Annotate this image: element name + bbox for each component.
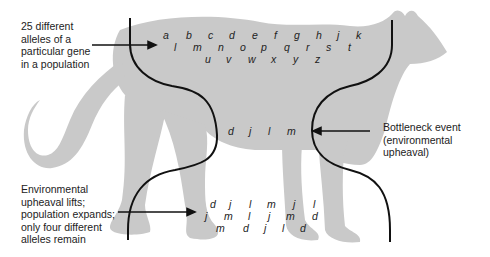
allele: l	[249, 198, 252, 210]
allele: v	[226, 53, 232, 65]
genetic-bottleneck-diagram: a b c d e f g h j k l m n o p q r s t u …	[0, 0, 490, 257]
allele: j	[262, 222, 267, 234]
label-recovery: Environmental upheaval lifts; population…	[21, 183, 115, 246]
allele: m	[286, 210, 295, 222]
allele: n	[218, 41, 224, 53]
allele: m	[193, 41, 202, 53]
allele: l	[248, 210, 251, 222]
allele: l	[282, 222, 285, 234]
allele: a	[163, 29, 169, 41]
allele: h	[316, 29, 322, 41]
allele: d	[243, 222, 250, 234]
allele: e	[252, 29, 258, 41]
allele: o	[240, 41, 246, 53]
allele: k	[356, 29, 362, 41]
allele: m	[216, 222, 225, 234]
allele: j	[266, 210, 271, 222]
cat-tail	[24, 60, 125, 168]
allele: l	[313, 198, 316, 210]
label-initial-population: 25 different alleles of a particular gen…	[21, 20, 90, 70]
allele: d	[312, 210, 319, 222]
allele: z	[314, 53, 321, 65]
allele: g	[294, 29, 300, 41]
allele: c	[208, 29, 214, 41]
allele: q	[284, 41, 290, 53]
allele: r	[306, 41, 310, 53]
allele: m	[224, 210, 233, 222]
allele: b	[186, 29, 192, 41]
allele: m	[287, 125, 296, 137]
allele: s	[326, 41, 332, 53]
cat-rear-leg-1	[110, 95, 165, 235]
label-bottleneck-event: Bottleneck event (environmental upheaval…	[383, 121, 490, 159]
allele: u	[205, 53, 211, 65]
allele: p	[260, 41, 267, 53]
allele: d	[210, 198, 217, 210]
allele: j	[227, 198, 232, 210]
allele: m	[267, 198, 276, 210]
allele: y	[292, 53, 299, 65]
allele: x	[270, 53, 277, 65]
